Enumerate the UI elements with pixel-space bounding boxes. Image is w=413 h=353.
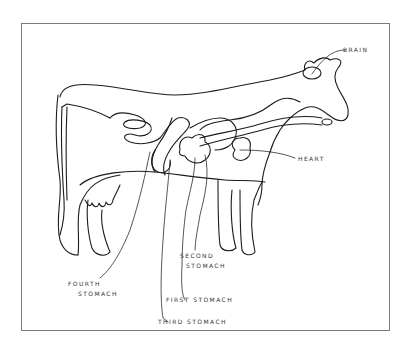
rectum	[62, 104, 110, 118]
label-brain: BRAIN	[343, 46, 368, 54]
label-second-stomach-1: SECOND	[180, 252, 214, 260]
esophagus-inner	[200, 124, 322, 146]
rear-leg-back	[56, 95, 78, 255]
chest-line	[258, 152, 270, 205]
first-stomach-pointer	[182, 158, 195, 300]
intestines-loop	[160, 118, 189, 175]
label-heart: HEART	[298, 155, 325, 163]
front-leg-1	[218, 180, 236, 251]
label-first-stomach: FIRST STOMACH	[166, 296, 233, 304]
label-fourth-stomach-1: FOURTH	[68, 280, 101, 288]
front-leg-2	[240, 182, 262, 255]
heart-shape	[232, 137, 250, 160]
rear-leg-front	[78, 175, 120, 255]
tail-inner	[66, 107, 67, 200]
second-stomach-pointer	[195, 155, 207, 250]
brain-shape	[303, 67, 321, 79]
nose-shape	[322, 119, 332, 125]
label-second-stomach-2: STOMACH	[186, 262, 226, 270]
tail	[60, 107, 64, 235]
brain-pointer-line	[312, 50, 345, 74]
label-third-stomach: THIRD STOMACH	[158, 318, 227, 326]
intestines-loop-2	[152, 118, 172, 172]
rear-leg-inner	[87, 200, 110, 255]
intestines-coil	[110, 113, 160, 144]
esophagus	[200, 116, 322, 138]
label-fourth-stomach-2: STOMACH	[78, 290, 118, 298]
